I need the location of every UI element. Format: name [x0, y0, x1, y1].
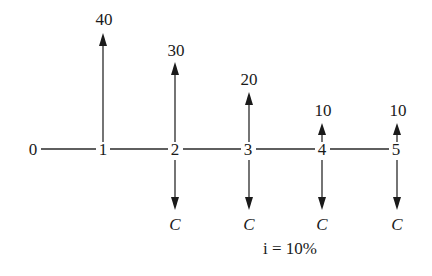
inflow-label-5: 10 [390, 101, 407, 120]
arrowhead-up-icon [318, 123, 326, 135]
inflow-arrow-2 [171, 62, 179, 142]
arrowhead-up-icon [99, 33, 107, 46]
period-label-0: 0 [29, 140, 38, 159]
outflow-label-5: C [391, 215, 403, 234]
arrowhead-down-icon [318, 197, 326, 210]
inflow-label-4: 10 [315, 101, 332, 120]
outflow-label-4: C [316, 215, 328, 234]
outflow-arrow-5 [393, 160, 401, 210]
outflow-label-3: C [243, 215, 255, 234]
period-label-2: 2 [171, 140, 180, 159]
period-label-3: 3 [244, 140, 253, 159]
inflow-arrow-3 [245, 92, 253, 142]
inflow-label-1: 40 [96, 10, 113, 29]
arrowhead-up-icon [393, 123, 401, 135]
arrowhead-up-icon [245, 92, 253, 105]
inflow-label-2: 30 [168, 41, 185, 60]
outflow-arrow-3 [245, 160, 253, 210]
period-label-4: 4 [318, 140, 327, 159]
arrowhead-up-icon [171, 62, 179, 75]
inflow-label-3: 20 [241, 70, 258, 89]
period-label-5: 5 [392, 140, 401, 159]
outflow-label-2: C [169, 215, 181, 234]
arrowhead-down-icon [245, 197, 253, 210]
period-label-1: 1 [99, 140, 108, 159]
interest-rate-label: i = 10% [263, 239, 317, 258]
inflow-arrow-1 [99, 33, 107, 142]
arrowhead-down-icon [171, 197, 179, 210]
outflow-arrow-4 [318, 160, 326, 210]
cash-flow-diagram: 0 1 2 3 4 5 40 30 20 10 10 C C C [0, 0, 432, 276]
arrowhead-down-icon [393, 197, 401, 210]
outflow-arrow-2 [171, 160, 179, 210]
